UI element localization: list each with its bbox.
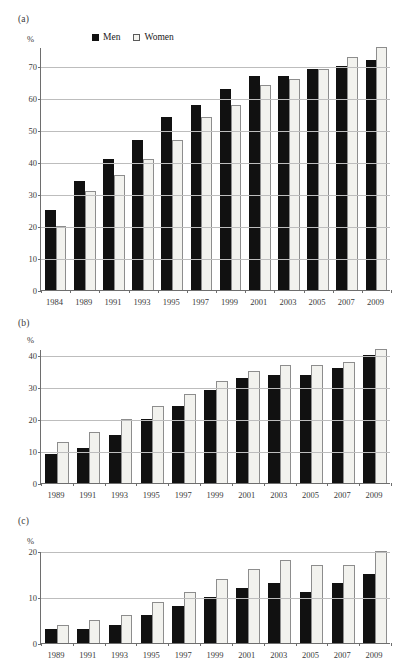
x-tick-mark	[41, 643, 42, 646]
figure-page: (a) % Men Women 010203040506070 19841989…	[0, 0, 399, 660]
bar-men-2007	[332, 368, 344, 483]
legend-swatch-men-icon	[92, 34, 99, 41]
bar-women-1995	[152, 406, 164, 483]
bar-group	[332, 350, 356, 483]
y-tick-label: 30	[29, 383, 38, 393]
x-tick-label: 2009	[366, 490, 383, 500]
bar-women-1989	[85, 191, 96, 290]
bar-men-2009	[366, 60, 377, 290]
x-tick-label: 1999	[207, 650, 224, 660]
bar-group	[249, 48, 271, 290]
gridline	[41, 99, 390, 100]
gridline	[41, 452, 390, 453]
x-tick-mark	[391, 483, 392, 486]
x-tick-mark	[187, 290, 188, 293]
bar-men-2009	[363, 355, 375, 483]
y-tick-label: 20	[29, 547, 38, 557]
y-tick-mark	[38, 131, 41, 132]
bar-group	[74, 48, 96, 290]
y-tick-label: 20	[29, 222, 38, 232]
bar-group	[191, 48, 213, 290]
x-tick-mark	[264, 643, 265, 646]
legend-swatch-women-icon	[133, 34, 140, 41]
x-tick-label: 1999	[207, 490, 224, 500]
bar-men-1993	[109, 435, 121, 483]
bar-men-1995	[161, 117, 172, 290]
bar-men-2005	[300, 375, 312, 483]
x-tick-label: 1991	[104, 297, 121, 307]
x-tick-mark	[41, 290, 42, 293]
y-tick-mark	[38, 99, 41, 100]
y-tick-label: 10	[29, 254, 38, 264]
x-tick-label: 1999	[221, 297, 238, 307]
bar-women-1997	[184, 394, 196, 483]
bar-women-2009	[375, 349, 387, 483]
y-tick-label: 40	[29, 351, 38, 361]
x-tick-mark	[99, 290, 100, 293]
bar-men-2001	[236, 378, 248, 483]
y-tick-label: 30	[29, 190, 38, 200]
x-tick-mark	[359, 643, 360, 646]
x-tick-mark	[105, 643, 106, 646]
bar-women-1999	[231, 105, 242, 290]
panel-a-bars	[41, 48, 390, 290]
x-tick-label: 1995	[143, 490, 160, 500]
bar-men-1991	[103, 159, 114, 290]
panel-a-label: (a)	[18, 14, 29, 24]
bar-group	[45, 48, 67, 290]
y-tick-mark	[38, 420, 41, 421]
x-tick-mark	[333, 290, 334, 293]
x-tick-mark	[304, 290, 305, 293]
x-tick-mark	[129, 290, 130, 293]
y-tick-label: 0	[33, 286, 37, 296]
bar-group	[77, 350, 101, 483]
x-tick-mark	[168, 643, 169, 646]
bar-women-2003	[280, 365, 292, 483]
bar-men-1997	[172, 606, 184, 643]
x-tick-label: 1989	[75, 297, 92, 307]
bar-men-2003	[268, 583, 280, 643]
gridline	[41, 552, 390, 553]
x-tick-mark	[327, 643, 328, 646]
x-tick-label: 1995	[143, 650, 160, 660]
x-tick-mark	[158, 290, 159, 293]
panel-b-label: (b)	[18, 318, 30, 328]
bar-women-1997	[201, 117, 212, 290]
y-tick-label: 0	[33, 479, 37, 489]
gridline	[41, 195, 390, 196]
bar-men-2009	[363, 574, 375, 643]
chart-panel-a: (a) % Men Women 010203040506070 19841989…	[0, 14, 399, 321]
legend-label-women: Women	[144, 32, 173, 42]
x-tick-mark	[391, 643, 392, 646]
x-tick-label: 1984	[46, 297, 63, 307]
gridline	[41, 388, 390, 389]
x-tick-label: 1997	[192, 297, 209, 307]
x-tick-label: 1993	[111, 650, 128, 660]
x-tick-mark	[359, 483, 360, 486]
chart-panel-b: (b) % 010203040 198919911993199519971999…	[0, 318, 399, 514]
bar-women-1993	[121, 615, 133, 643]
x-tick-label: 1995	[163, 297, 180, 307]
legend-entry-women: Women	[133, 32, 173, 42]
x-tick-mark	[232, 483, 233, 486]
bar-women-1989	[57, 625, 69, 643]
bar-women-2005	[311, 565, 323, 643]
x-tick-mark	[362, 290, 363, 293]
y-tick-mark	[38, 195, 41, 196]
bar-group	[204, 350, 228, 483]
bar-women-2005	[311, 365, 323, 483]
bar-men-2005	[307, 69, 318, 290]
x-tick-mark	[391, 290, 392, 293]
x-tick-mark	[168, 483, 169, 486]
bar-group	[300, 350, 324, 483]
bar-men-1991	[77, 629, 89, 643]
x-tick-label: 1997	[175, 490, 192, 500]
chart-panel-c: (c) % 01020 1989199119931995199719992001…	[0, 516, 399, 660]
x-tick-mark	[136, 483, 137, 486]
cut-off-header-text	[18, 0, 378, 6]
gridline	[41, 356, 390, 357]
y-tick-mark	[38, 227, 41, 228]
bar-women-1999	[216, 579, 228, 643]
bar-group	[236, 350, 260, 483]
bar-women-2001	[248, 569, 260, 643]
